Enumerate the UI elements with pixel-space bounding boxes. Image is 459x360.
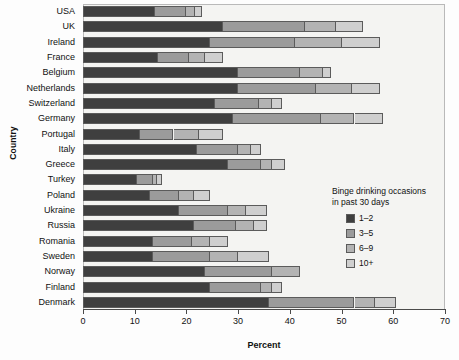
- x-axis-title: Percent: [83, 340, 445, 350]
- x-axis-tick: [445, 310, 446, 314]
- y-axis-label: Romania: [39, 236, 75, 247]
- bar-segment: [179, 205, 228, 216]
- bar-row: [83, 297, 445, 308]
- bar-segment: [210, 251, 238, 262]
- x-axis-tick-label: 10: [130, 316, 140, 326]
- bar-segment: [261, 159, 271, 170]
- x-axis-tick: [342, 310, 343, 314]
- x-axis-tick: [393, 310, 394, 314]
- bar-row: [83, 129, 445, 140]
- bar-segment: [179, 190, 195, 201]
- bar-segment: [205, 266, 272, 277]
- x-axis-tick-label: 60: [388, 316, 398, 326]
- bar-segment: [272, 282, 282, 293]
- bar-segment: [316, 83, 352, 94]
- y-axis-label: UK: [62, 21, 75, 32]
- y-axis-label: Netherlands: [26, 83, 75, 94]
- bar-row: [83, 282, 445, 293]
- bar-segment: [228, 159, 262, 170]
- bar-row: [83, 52, 445, 63]
- bar-segment: [83, 236, 153, 247]
- bar-segment: [199, 129, 222, 140]
- bar-segment: [233, 113, 321, 124]
- bar-row: [83, 67, 445, 78]
- bar-segment: [192, 236, 210, 247]
- legend-swatch: [346, 214, 355, 223]
- y-axis-label: Poland: [47, 190, 75, 201]
- bar-segment: [355, 297, 376, 308]
- bar-segment: [321, 113, 355, 124]
- y-axis-label: USA: [56, 6, 75, 17]
- bar-segment: [210, 282, 262, 293]
- bar-segment: [155, 6, 186, 17]
- bar-segment: [355, 113, 383, 124]
- bar-segment: [215, 98, 259, 109]
- legend-item[interactable]: 6–9: [346, 242, 450, 254]
- x-axis-tick-label: 50: [337, 316, 347, 326]
- bar-segment: [236, 220, 254, 231]
- y-axis-label: Greece: [45, 159, 75, 170]
- legend-item[interactable]: 1–2: [346, 212, 450, 224]
- y-axis-label: Finland: [45, 282, 75, 293]
- bar-segment: [305, 21, 336, 32]
- bar-segment: [83, 220, 194, 231]
- bar-segment: [375, 297, 396, 308]
- bar-segment: [261, 282, 271, 293]
- y-axis-label: Italy: [58, 144, 75, 155]
- bar-segment: [83, 98, 215, 109]
- bar-segment: [83, 37, 210, 48]
- legend-title: Binge drinking occasions in past 30 days: [332, 186, 450, 207]
- bar-row: [83, 159, 445, 170]
- bar-segment: [210, 37, 295, 48]
- bar-segment: [83, 251, 153, 262]
- bar-segment: [83, 52, 158, 63]
- y-axis-label: Portugal: [41, 129, 75, 140]
- bar-segment: [83, 205, 179, 216]
- bar-segment: [83, 113, 233, 124]
- y-axis-label: Switzerland: [28, 98, 75, 109]
- x-axis-tick: [135, 310, 136, 314]
- bar-segment: [83, 144, 197, 155]
- bar-row: [83, 113, 445, 124]
- legend-item-label: 1–2: [359, 214, 373, 223]
- legend-item[interactable]: 3–5: [346, 227, 450, 239]
- bar-segment: [195, 6, 202, 17]
- bar-row: [83, 83, 445, 94]
- bar-segment: [157, 174, 162, 185]
- legend-title-line-1: Binge drinking occasions: [332, 186, 426, 196]
- bar-segment: [228, 205, 246, 216]
- bar-segment: [238, 83, 316, 94]
- bar-segment: [259, 98, 272, 109]
- x-axis-tick: [290, 310, 291, 314]
- bar-segment: [251, 144, 261, 155]
- y-axis-label: Ukraine: [44, 205, 75, 216]
- x-axis-tick: [186, 310, 187, 314]
- bar-segment: [83, 266, 205, 277]
- bar-segment: [238, 67, 300, 78]
- x-axis-tick-label: 20: [181, 316, 191, 326]
- bar-segment: [269, 297, 354, 308]
- bar-segment: [83, 190, 150, 201]
- x-axis-tick: [238, 310, 239, 314]
- bar-segment: [83, 282, 210, 293]
- x-axis-tick-label: 70: [440, 316, 450, 326]
- bar-segment: [153, 251, 210, 262]
- bar-segment: [336, 21, 363, 32]
- legend-item[interactable]: 10+: [346, 257, 450, 269]
- legend-item-label: 10+: [359, 259, 373, 268]
- bar-segment: [272, 266, 300, 277]
- bar-segment: [140, 129, 174, 140]
- bar-segment: [194, 190, 210, 201]
- bar-segment: [83, 6, 155, 17]
- bar-row: [83, 144, 445, 155]
- bar-segment: [352, 83, 380, 94]
- bar-segment: [223, 21, 306, 32]
- bar-segment: [158, 52, 189, 63]
- bar-segment: [137, 174, 153, 185]
- y-axis-label: Turkey: [48, 174, 75, 185]
- bar-segment: [174, 129, 200, 140]
- bar-segment: [83, 297, 269, 308]
- bar-segment: [153, 236, 192, 247]
- bar-segment: [210, 236, 228, 247]
- bar-segment: [295, 37, 342, 48]
